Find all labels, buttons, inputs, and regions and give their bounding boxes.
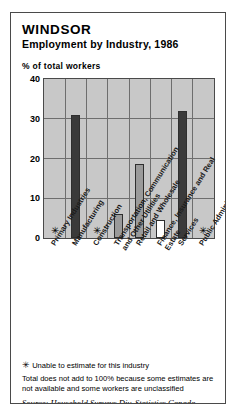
chart-subtitle: Employment by Industry, 1986: [22, 38, 218, 51]
y-axis-unit-label: % of total workers: [22, 61, 101, 71]
y-axis-tick-label: 30: [30, 114, 40, 124]
chart-figure: WINDSOR Employment by Industry, 1986 % o…: [10, 12, 226, 404]
chart-header: WINDSOR Employment by Industry, 1986: [22, 22, 218, 51]
y-axis-tick-label: 40: [30, 74, 40, 84]
page-title: WINDSOR: [22, 22, 218, 37]
source-line: Source: Household Surveys Div, Statistic…: [22, 398, 220, 404]
x-axis-category-labels: Primary IndustriesManufacturingConstruct…: [11, 239, 226, 359]
footnote-unavailable-text: Unable to estimate for this industry: [32, 361, 149, 370]
footnote-total: Total does not add to 100% because some …: [22, 374, 220, 393]
y-axis-tick-label: 10: [30, 193, 40, 203]
footnotes-block: ✳ Unable to estimate for this industry T…: [22, 360, 220, 404]
footnote-unavailable: ✳ Unable to estimate for this industry: [22, 360, 220, 371]
y-axis-tick-label: 20: [30, 154, 40, 164]
asterisk-icon: ✳: [22, 360, 30, 370]
